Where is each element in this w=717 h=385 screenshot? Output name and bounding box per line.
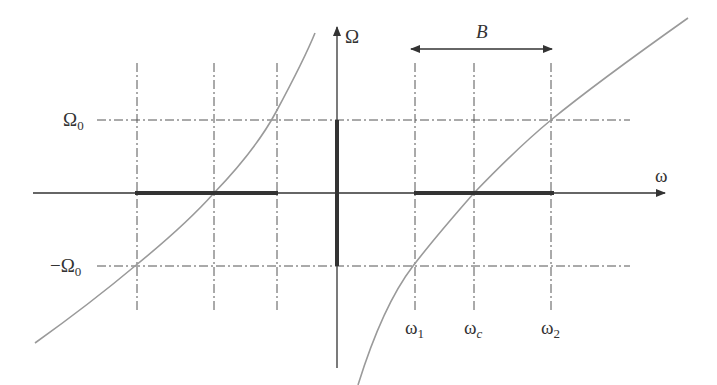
frequency-transformation-diagram <box>0 0 717 385</box>
bandwidth-label: B <box>476 22 488 41</box>
omega0-label: Ω0 <box>63 110 84 132</box>
left-mapping-curve <box>35 33 315 343</box>
omegac-label: ωc <box>464 318 482 340</box>
Omega-axis-label: Ω <box>345 27 359 46</box>
omega-axis-label: ω <box>655 166 668 185</box>
grid-lines <box>97 63 630 310</box>
mapping-curves <box>35 18 688 385</box>
omega1-label: ω1 <box>405 318 424 340</box>
neg-omega0-label: −Ω0 <box>50 256 81 278</box>
omega2-label: ω2 <box>541 318 560 340</box>
